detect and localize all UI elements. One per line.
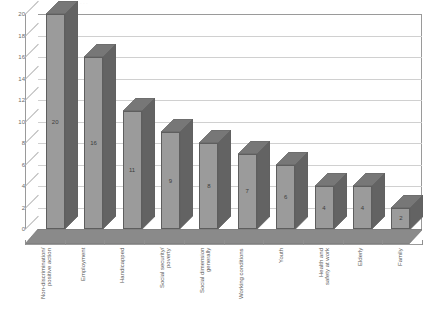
bar-value-label: 6: [276, 194, 295, 200]
x-tick-label: Social dimension generally: [199, 248, 212, 306]
x-tick-label: Social security/ poverty: [159, 248, 172, 306]
bar: 4: [353, 173, 385, 229]
x-tick: [144, 240, 145, 245]
x-tick-label: Family: [397, 248, 403, 306]
x-tick-label: Handicapped: [119, 248, 125, 306]
x-tick-label: Working conditions: [238, 248, 244, 306]
x-tick: [263, 240, 264, 245]
bar-value-label: 20: [46, 119, 65, 125]
bar: 16: [84, 44, 116, 229]
bar-value-label: 4: [315, 205, 334, 211]
x-tick-label: Youth: [278, 248, 284, 306]
bar: 6: [276, 152, 308, 230]
x-tick-label: Health and safety at work: [318, 248, 331, 306]
bar-value-label: 2: [391, 215, 410, 221]
bar: 20: [46, 1, 78, 229]
bar-value-label: 9: [161, 178, 180, 184]
bar-series: 2016119876442: [0, 0, 431, 309]
bar: 9: [161, 119, 193, 229]
x-tick: [65, 240, 66, 245]
bar: 2: [391, 195, 423, 230]
x-tick: [184, 240, 185, 245]
x-tick: [303, 240, 304, 245]
x-tick-label: Non-discrimination/ positive action: [40, 248, 53, 306]
bar-value-label: 7: [238, 188, 257, 194]
bar-chart: · · · 02468101214161820 2016119876442 No…: [0, 0, 431, 309]
x-tick: [422, 240, 423, 245]
x-tick-label: Employment: [80, 248, 86, 306]
bar-value-label: 4: [353, 205, 372, 211]
x-tick: [382, 240, 383, 245]
x-tick-label: Elderly: [357, 248, 363, 306]
x-tick: [343, 240, 344, 245]
x-tick: [25, 240, 26, 245]
bar: 8: [199, 130, 231, 229]
bar: 4: [315, 173, 347, 229]
bar: 11: [123, 98, 155, 229]
x-tick: [224, 240, 225, 245]
bar-value-label: 16: [84, 140, 103, 146]
bar-value-label: 11: [123, 167, 142, 173]
bar-value-label: 8: [199, 183, 218, 189]
x-tick: [104, 240, 105, 245]
bar: 7: [238, 141, 270, 229]
